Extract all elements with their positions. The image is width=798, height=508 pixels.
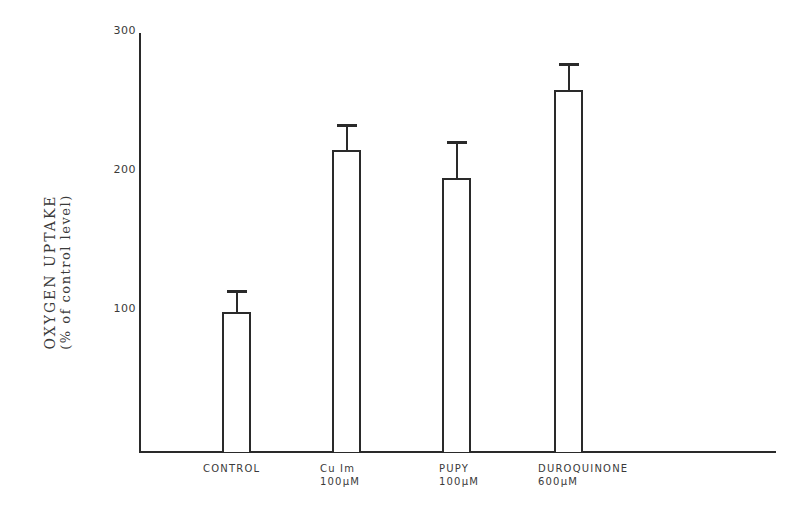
x-label-cu-im: Cu Im 100µM <box>320 462 360 488</box>
x-label-pupy: PUPY 100µM <box>439 462 479 488</box>
y-axis-title-sub: (% of control level) <box>58 172 73 372</box>
error-bar-duroquinone <box>568 64 570 91</box>
error-cap-cu-im <box>337 124 357 127</box>
bar-duroquinone <box>554 90 583 452</box>
error-cap-control <box>227 290 247 293</box>
x-label-control: CONTROL <box>203 462 260 475</box>
error-cap-duroquinone <box>559 63 579 66</box>
x-label-duroquinone: DUROQUINONE 600µM <box>538 462 628 488</box>
y-tick-100: 100 <box>96 302 136 315</box>
error-bar-pupy <box>456 142 458 178</box>
y-axis-title-main: OXYGEN UPTAKE <box>42 172 58 372</box>
y-tick-200: 200 <box>96 163 136 176</box>
bar-pupy <box>442 178 471 452</box>
error-cap-pupy <box>447 141 467 144</box>
bar-cu-im <box>332 150 361 452</box>
bar-control <box>222 312 251 452</box>
y-tick-300: 300 <box>96 24 136 37</box>
y-axis <box>139 33 141 453</box>
error-bar-control <box>236 291 238 312</box>
y-axis-title: OXYGEN UPTAKE (% of control level) <box>42 172 82 372</box>
error-bar-cu-im <box>346 125 348 150</box>
bar-chart: OXYGEN UPTAKE (% of control level) 300 2… <box>0 0 798 508</box>
